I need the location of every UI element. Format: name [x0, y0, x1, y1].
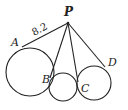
point-p-dot: [67, 22, 70, 25]
label-b: B: [41, 73, 50, 86]
segment-pd: [68, 23, 105, 67]
tangent-diagram: P A B C D 8.2: [0, 0, 128, 110]
label-d: D: [107, 56, 117, 69]
segment-pc: [68, 23, 78, 82]
segment-length-label: 8.2: [30, 21, 49, 38]
circle-middle: [49, 73, 77, 101]
label-p: P: [63, 5, 74, 19]
circle-left: [6, 48, 54, 96]
label-c: C: [81, 82, 90, 95]
label-a: A: [10, 36, 19, 49]
